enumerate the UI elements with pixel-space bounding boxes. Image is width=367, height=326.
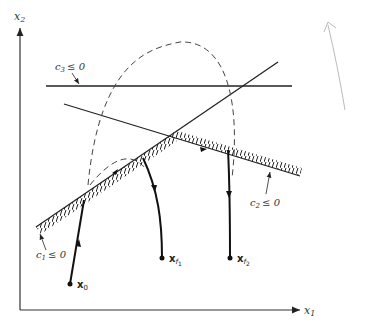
constraint-trajectory-diagram: x2 x1 c3≤ 0 c1≤ 0 c2≤ 0 [0, 0, 367, 326]
point-xf2 [228, 256, 233, 261]
x0-label: x0 [77, 279, 88, 292]
trajectory-to-xf2 [228, 150, 230, 258]
dashed-trajectories [88, 42, 234, 185]
c3-pointer-arrow [72, 73, 79, 84]
c1-label: c1≤ 0 [36, 249, 67, 262]
c1-hatch [36, 134, 177, 234]
c1-pointer-arrow [40, 234, 46, 250]
xf1-label: xf1 [169, 253, 182, 267]
direction-arrows [76, 147, 232, 247]
x-axis-label: x1 [304, 304, 315, 318]
trajectory-to-xf1 [143, 158, 162, 258]
pencil-arrow-head [324, 22, 336, 32]
constraint-c3: c3≤ 0 [46, 61, 292, 86]
constraint-c1: c1≤ 0 [36, 62, 278, 262]
pencil-marks [324, 22, 345, 110]
y-axis-label: x2 [14, 10, 25, 24]
c2-label: c2≤ 0 [250, 197, 281, 210]
solid-trajectories [70, 150, 230, 284]
arrow-xf2 [226, 191, 232, 198]
xf2-label: xf2 [237, 253, 250, 267]
c3-label: c3≤ 0 [55, 61, 86, 74]
pencil-arrow-stroke [328, 25, 345, 110]
point-x0 [68, 282, 73, 287]
point-xf1 [160, 256, 165, 261]
large-dashed-arc [88, 42, 234, 185]
points: x0 xf1 xf2 [68, 253, 250, 292]
c2-pointer-arrow [266, 172, 270, 194]
c2-hatch [172, 130, 302, 176]
